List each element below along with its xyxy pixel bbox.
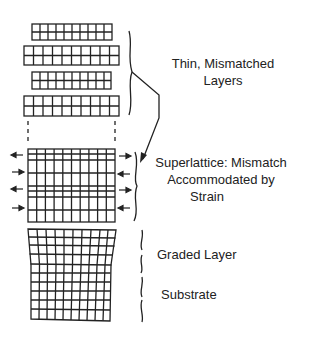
brace-thin-layers	[129, 31, 132, 115]
brace-graded-upper	[141, 230, 142, 250]
brace-substrate-upper	[141, 277, 142, 297]
thin-layers-label-line2: Layers	[163, 72, 283, 89]
substrate-label: Substrate	[161, 286, 217, 303]
dashed-guides	[28, 121, 115, 142]
strain-arrows-left	[11, 153, 24, 211]
superlattice-label-line3: Strain	[118, 188, 296, 205]
thin-layer-3	[32, 72, 111, 89]
thin-layer-1	[32, 24, 112, 40]
brace-graded-lower	[141, 255, 142, 273]
superlattice-block	[28, 149, 115, 222]
superlattice-label-line1: Superlattice: Mismatch	[146, 154, 296, 171]
pointer-line	[132, 72, 159, 159]
brace-superlattice	[134, 152, 137, 221]
thin-layers-label-line1: Thin, Mismatched	[163, 55, 283, 72]
graded-substrate-block	[28, 229, 116, 321]
superlattice-label-line2: Accommodated by	[146, 171, 296, 188]
brace-substrate-lower	[141, 300, 142, 322]
thin-layer-2	[24, 46, 119, 65]
graded-layer-label: Graded Layer	[157, 246, 237, 263]
thin-layer-4	[24, 96, 119, 116]
thin-layers-label: Thin, Mismatched Layers	[163, 55, 283, 89]
superlattice-label: Superlattice: Mismatch Accommodated by S…	[146, 154, 296, 205]
